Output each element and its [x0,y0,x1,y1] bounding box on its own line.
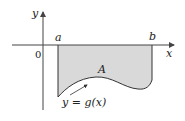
point-a-label: a [55,31,62,44]
curve-pointer-arrow [70,85,87,95]
origin-label: 0 [35,49,41,60]
area-diagram: y x 0 a b A y = g(x) [0,0,185,121]
region-label: A [97,63,106,76]
point-b-label: b [149,30,156,43]
x-axis-label: x [166,47,173,60]
curve-label: y = g(x) [61,96,106,109]
y-axis-label: y [31,7,39,20]
